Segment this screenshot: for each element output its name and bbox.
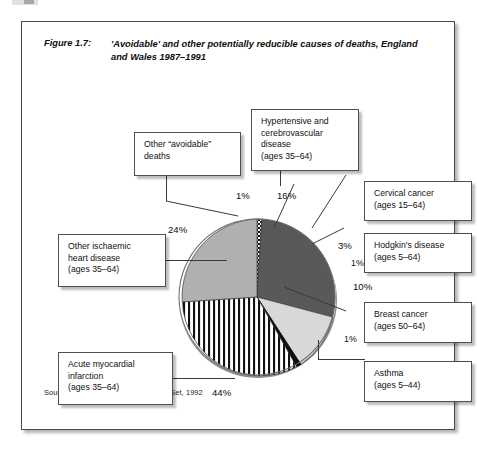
leader-acute-myocardial-horizontal	[172, 378, 235, 379]
callout-hodgkins-disease: Hodgkin's disease (ages 5–64)	[364, 233, 472, 273]
pct-label-breast: 10%	[353, 281, 372, 292]
figure-title: 'Avoidable' and other potentially reduci…	[111, 38, 434, 64]
callout-hypertensive-line-3: disease	[261, 139, 350, 151]
callout-other-ischaemic-line-2: heart disease	[68, 253, 157, 265]
callout-cervical-line-1: Cervical cancer	[374, 188, 463, 200]
callout-acute-myocardial-line-1: Acute myocardial	[68, 359, 164, 371]
pct-label-acute-myocardial: 44%	[212, 387, 231, 398]
leader-asthma-vertical	[318, 340, 319, 360]
leader-other-ischaemic-horizontal	[165, 260, 227, 261]
leader-other-avoidable-diagonal	[162, 194, 242, 220]
pct-label-other-avoidable: 1%	[236, 190, 250, 201]
callout-hypertensive-cerebrovascular: Hypertensive and cerebrovascular disease…	[251, 109, 359, 171]
pct-label-hodgkin: 1%	[351, 258, 364, 268]
pct-label-other-ischaemic: 24%	[168, 224, 187, 235]
pct-label-asthma: 1%	[344, 334, 357, 344]
leader-cervical-diagonal	[308, 172, 348, 232]
callout-breast-cancer: Breast cancer (ages 50–64)	[364, 302, 472, 343]
callout-asthma-line-2: (ages 5–44)	[374, 380, 463, 392]
callout-other-avoidable-line-1: Other “avoidable”	[144, 139, 232, 151]
callout-hypertensive-line-4: (ages 35–64)	[261, 151, 350, 163]
leader-asthma-horizontal	[318, 359, 365, 360]
callout-other-avoidable-deaths: Other “avoidable” deaths	[134, 132, 241, 176]
callout-hypertensive-line-1: Hypertensive and	[261, 116, 350, 128]
callout-cervical-line-2: (ages 15–64)	[374, 200, 463, 212]
figure-caption: Figure 1.7: 'Avoidable' and other potent…	[44, 38, 434, 64]
callout-hypertensive-line-2: cerebrovascular	[261, 128, 350, 140]
leader-breast-diagonal	[280, 284, 348, 314]
callout-asthma: Asthma (ages 5–44)	[364, 361, 472, 402]
callout-cervical-cancer: Cervical cancer (ages 15–64)	[364, 181, 472, 221]
figure-frame: Figure 1.7: 'Avoidable' and other potent…	[21, 21, 455, 430]
callout-other-ischaemic-line-3: (ages 35–64)	[68, 264, 157, 276]
callout-other-ischaemic-line-1: Other ischaemic	[68, 241, 157, 253]
callout-breast-line-1: Breast cancer	[374, 309, 463, 321]
callout-acute-myocardial-line-3: (ages 35–64)	[68, 382, 164, 394]
callout-acute-myocardial-infarction: Acute myocardial infarction (ages 35–64)	[58, 352, 173, 405]
callout-hodgkin-line-2: (ages 5–64)	[374, 252, 463, 264]
pct-label-hypertensive: 16%	[277, 190, 296, 201]
figure-number: Figure 1.7:	[44, 38, 91, 48]
callout-breast-line-2: (ages 50–64)	[374, 321, 463, 333]
callout-hodgkin-line-1: Hodgkin's disease	[374, 240, 463, 252]
callout-asthma-line-1: Asthma	[374, 368, 463, 380]
pct-label-cervical: 3%	[338, 240, 352, 251]
callout-other-avoidable-line-2: deaths	[144, 151, 232, 163]
callout-other-ischaemic-heart-disease: Other ischaemic heart disease (ages 35–6…	[58, 234, 166, 287]
figure-title-line-1: 'Avoidable' and other potentially reduci…	[111, 39, 378, 49]
page-scan-artifact-2	[24, 0, 34, 4]
callout-acute-myocardial-line-2: infarction	[68, 371, 164, 383]
